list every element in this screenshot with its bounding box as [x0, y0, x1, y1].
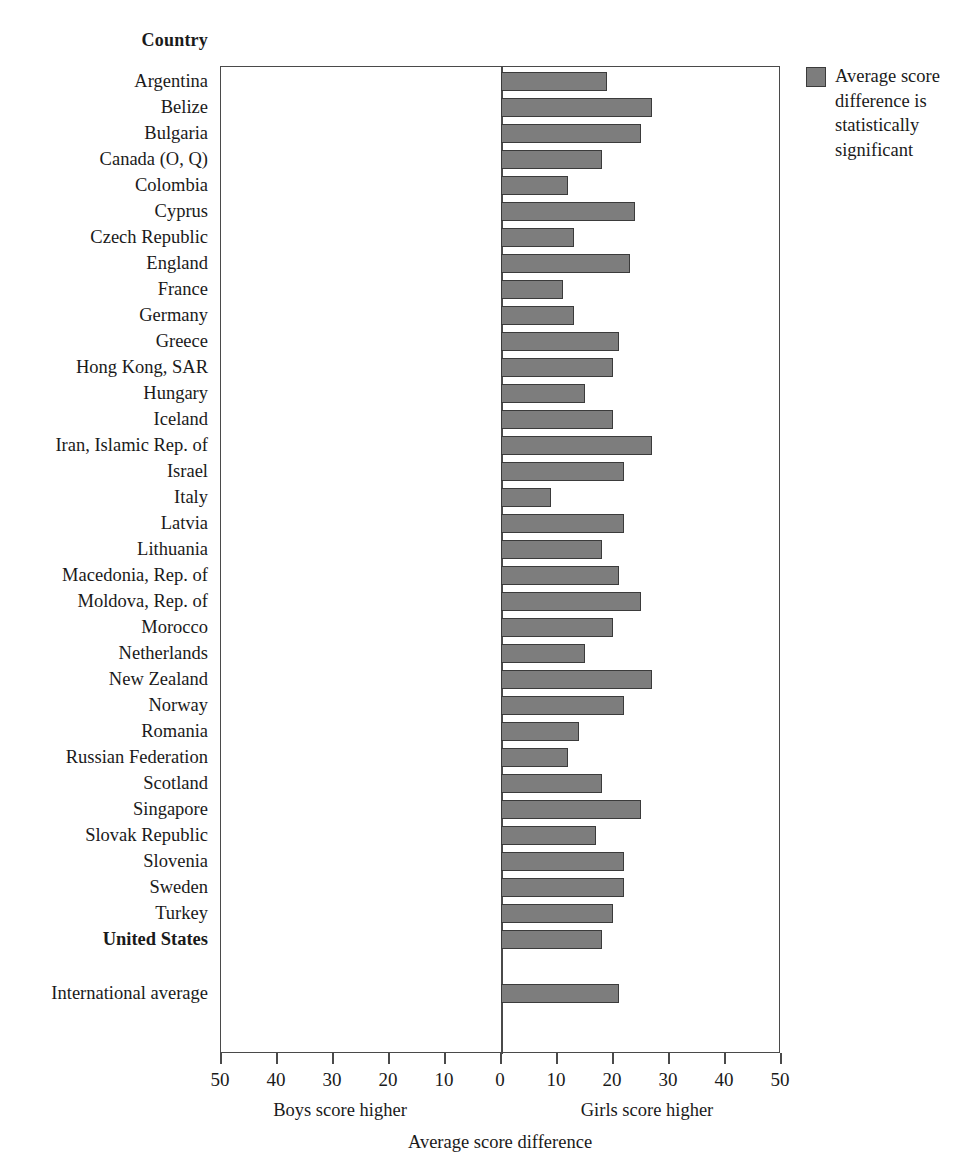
- bar: [501, 488, 551, 507]
- x-axis-tick-labels: 504030201001020304050: [0, 1069, 980, 1095]
- category-label: France: [0, 280, 208, 299]
- axis-tick: [276, 1053, 278, 1064]
- bar: [501, 800, 641, 819]
- axis-tick-label: 10: [526, 1069, 586, 1091]
- bar: [501, 72, 607, 91]
- category-label: Norway: [0, 696, 208, 715]
- category-label: Scotland: [0, 774, 208, 793]
- axis-tick: [500, 1053, 502, 1064]
- axis-tick: [780, 1053, 782, 1064]
- category-label: Iran, Islamic Rep. of: [0, 436, 208, 455]
- axis-tick-label: 0: [470, 1069, 530, 1091]
- bar: [501, 358, 613, 377]
- category-label: Argentina: [0, 72, 208, 91]
- axis-tick: [444, 1053, 446, 1064]
- legend-swatch-icon: [806, 67, 826, 87]
- bar: [501, 722, 579, 741]
- bar: [501, 930, 602, 949]
- bar: [501, 384, 585, 403]
- axis-tick: [332, 1053, 334, 1064]
- axis-tick-label: 40: [246, 1069, 306, 1091]
- axis-tick: [388, 1053, 390, 1064]
- category-label: Russian Federation: [0, 748, 208, 767]
- category-label: Greece: [0, 332, 208, 351]
- category-label: Colombia: [0, 176, 208, 195]
- bar: [501, 592, 641, 611]
- bar: [501, 462, 624, 481]
- bar: [501, 878, 624, 897]
- bar: [501, 644, 585, 663]
- bar: [501, 852, 624, 871]
- category-label-column: ArgentinaBelizeBulgariaCanada (O, Q)Colo…: [0, 66, 208, 1053]
- girls-score-higher-caption: Girls score higher: [497, 1100, 797, 1121]
- category-label: Macedonia, Rep. of: [0, 566, 208, 585]
- x-axis-ticks: [220, 1053, 780, 1065]
- bar: [501, 696, 624, 715]
- axis-tick: [220, 1053, 222, 1064]
- category-label: Hungary: [0, 384, 208, 403]
- bar: [501, 618, 613, 637]
- bar: [501, 254, 630, 273]
- bar: [501, 670, 652, 689]
- bar: [501, 98, 652, 117]
- axis-tick-label: 50: [750, 1069, 810, 1091]
- bar: [501, 410, 613, 429]
- bar: [501, 150, 602, 169]
- category-label: Netherlands: [0, 644, 208, 663]
- bar: [501, 826, 596, 845]
- category-label: Cyprus: [0, 202, 208, 221]
- category-label: Slovak Republic: [0, 826, 208, 845]
- category-label: Israel: [0, 462, 208, 481]
- bar: [501, 566, 619, 585]
- bar: [501, 176, 568, 195]
- x-axis-title: Average score difference: [220, 1132, 780, 1153]
- plot-area: [220, 66, 780, 1053]
- bar: [501, 436, 652, 455]
- axis-tick-label: 40: [694, 1069, 754, 1091]
- bar: [501, 228, 574, 247]
- category-label: Bulgaria: [0, 124, 208, 143]
- category-label: International average: [0, 984, 208, 1003]
- axis-tick-label: 50: [190, 1069, 250, 1091]
- axis-tick: [668, 1053, 670, 1064]
- category-label: Moldova, Rep. of: [0, 592, 208, 611]
- category-label: Czech Republic: [0, 228, 208, 247]
- category-label: United States: [0, 930, 208, 949]
- category-label: England: [0, 254, 208, 273]
- country-column-header: Country: [0, 30, 208, 51]
- category-label: Canada (O, Q): [0, 150, 208, 169]
- bar: [501, 332, 619, 351]
- bar: [501, 280, 563, 299]
- category-label: Iceland: [0, 410, 208, 429]
- category-label: Hong Kong, SAR: [0, 358, 208, 377]
- bar: [501, 514, 624, 533]
- category-label: Sweden: [0, 878, 208, 897]
- category-label: New Zealand: [0, 670, 208, 689]
- axis-tick: [724, 1053, 726, 1064]
- bar: [501, 124, 641, 143]
- category-label: Romania: [0, 722, 208, 741]
- category-label: Latvia: [0, 514, 208, 533]
- chart-root: Country ArgentinaBelizeBulgariaCanada (O…: [0, 0, 980, 1170]
- category-label: Slovenia: [0, 852, 208, 871]
- boys-score-higher-caption: Boys score higher: [190, 1100, 490, 1121]
- bar: [501, 904, 613, 923]
- bar: [501, 774, 602, 793]
- axis-tick-label: 10: [414, 1069, 474, 1091]
- category-label: Turkey: [0, 904, 208, 923]
- axis-tick: [556, 1053, 558, 1064]
- bar: [501, 984, 619, 1003]
- axis-tick-label: 30: [638, 1069, 698, 1091]
- axis-tick-label: 20: [358, 1069, 418, 1091]
- category-label: Italy: [0, 488, 208, 507]
- category-label: Singapore: [0, 800, 208, 819]
- category-label: Germany: [0, 306, 208, 325]
- axis-tick: [612, 1053, 614, 1064]
- axis-tick-label: 20: [582, 1069, 642, 1091]
- legend: Average score difference is statisticall…: [806, 64, 976, 162]
- bar: [501, 748, 568, 767]
- category-label: Lithuania: [0, 540, 208, 559]
- axis-tick-label: 30: [302, 1069, 362, 1091]
- category-label: Morocco: [0, 618, 208, 637]
- bar: [501, 202, 635, 221]
